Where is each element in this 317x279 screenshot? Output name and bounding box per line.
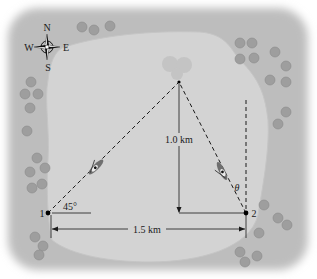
- tree-icon: [37, 179, 47, 189]
- tree-icon: [22, 126, 32, 136]
- lake-diagram: N S E W 1 2 45° θ 1.0 km 1.5 km: [0, 0, 317, 279]
- tree-icon: [259, 200, 269, 210]
- tree-icon: [32, 153, 42, 163]
- tree-icon: [249, 53, 259, 63]
- point-2-label: 2: [252, 208, 257, 219]
- tree-icon: [281, 107, 291, 117]
- tree-icon: [27, 183, 37, 193]
- tree-icon: [273, 213, 283, 223]
- tree-icon: [252, 251, 262, 261]
- tree-icon: [282, 220, 292, 230]
- angle-theta-label: θ: [235, 182, 240, 193]
- tree-icon: [26, 77, 36, 87]
- compass-south-label: S: [45, 62, 51, 73]
- tree-icon: [25, 167, 35, 177]
- tree-icon: [235, 247, 245, 257]
- point-1-label: 1: [40, 208, 45, 219]
- top-point-marker: [177, 80, 180, 83]
- tree-icon: [34, 250, 44, 260]
- point-1-marker: [46, 211, 51, 216]
- tree-icon: [30, 232, 40, 242]
- tree-icon: [240, 257, 250, 267]
- tree-icon: [38, 241, 48, 251]
- tree-icon: [281, 77, 291, 87]
- compass-west-label: W: [24, 42, 34, 53]
- tree-icon: [89, 25, 99, 35]
- tree-icon: [25, 103, 35, 113]
- tree-icon: [33, 89, 43, 99]
- tree-icon: [247, 38, 257, 48]
- angle-45-label: 45°: [63, 201, 77, 212]
- tree-icon: [235, 54, 245, 64]
- tree-icon: [270, 47, 280, 57]
- tree-icon: [77, 22, 87, 32]
- tree-icon: [281, 61, 291, 71]
- tree-icon: [254, 228, 264, 238]
- tree-icon: [20, 89, 30, 99]
- height-label: 1.0 km: [165, 134, 193, 145]
- tree-icon: [273, 119, 283, 129]
- tree-icon: [265, 75, 275, 85]
- baseline-label: 1.5 km: [133, 224, 161, 235]
- tree-icon: [105, 21, 115, 31]
- compass-east-label: E: [63, 42, 69, 53]
- tree-icon: [235, 38, 245, 48]
- compass-north-label: N: [43, 22, 50, 33]
- point-2-marker: [244, 211, 249, 216]
- tree-icon: [40, 163, 50, 173]
